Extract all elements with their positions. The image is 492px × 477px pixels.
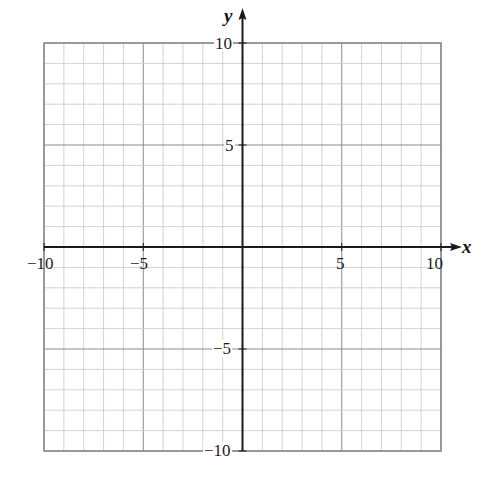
x-tick-5: 5 (336, 255, 345, 272)
x-axis-label: x (462, 237, 472, 256)
x-tick-neg10: −10 (27, 255, 54, 272)
y-tick-5: 5 (224, 137, 235, 154)
x-tick-neg5: −5 (130, 255, 148, 272)
y-axis-label: y (224, 6, 232, 25)
coordinate-grid (0, 0, 492, 477)
y-tick-neg5: −5 (212, 340, 232, 357)
x-tick-10: 10 (426, 255, 443, 272)
y-tick-neg10: −10 (203, 442, 232, 459)
y-tick-10: 10 (214, 35, 233, 52)
